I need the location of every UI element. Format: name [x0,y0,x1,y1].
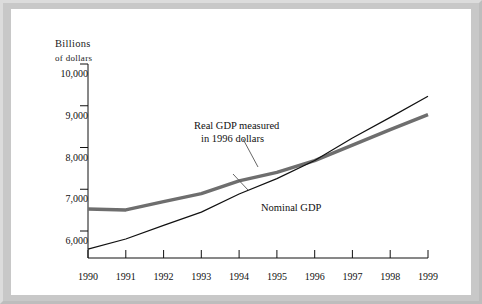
chart-canvas [0,0,482,304]
y-axis-ticks [80,64,88,231]
chart-figure: Billions of dollars 10,000 9,000 8,000 7… [0,0,482,304]
x-axis-ticks [88,250,428,258]
leader-line-real-gdp [243,139,258,167]
axes [88,64,428,258]
series-line-nominal-gdp [88,96,428,249]
series-line-real-gdp [88,115,428,210]
